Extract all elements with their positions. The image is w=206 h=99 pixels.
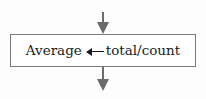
assignment-statement: Averagetotal/count: [11, 42, 195, 58]
arrow-down-icon: [97, 22, 109, 34]
arrow-down-icon: [97, 79, 109, 91]
variable-name: Average: [26, 42, 82, 58]
expression: total/count: [106, 42, 180, 58]
left-arrow-icon: [86, 47, 104, 57]
process-box: Averagetotal/count: [10, 34, 196, 67]
